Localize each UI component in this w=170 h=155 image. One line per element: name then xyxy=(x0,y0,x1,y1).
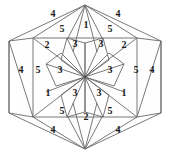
region-number-upper-right-3: 3 xyxy=(99,39,104,49)
region-number-bottom-right-5: 5 xyxy=(108,106,113,116)
region-number-bottom-left-4: 4 xyxy=(51,125,56,135)
region-number-lower-left-1: 1 xyxy=(46,88,51,98)
region-number-left-outer-4: 4 xyxy=(19,65,24,75)
region-number-bottom-center-2: 2 xyxy=(84,112,89,122)
region-number-upper-left-3: 3 xyxy=(73,39,78,49)
region-number-lower-right-3: 3 xyxy=(97,88,102,98)
region-number-right-core-3: 3 xyxy=(108,65,113,75)
region-number-bottom-left-5: 5 xyxy=(60,106,65,116)
region-number-left-5: 5 xyxy=(36,65,41,75)
region-number-top-center-1: 1 xyxy=(84,20,89,30)
center-hub-point xyxy=(84,76,86,78)
region-number-top-left-4: 4 xyxy=(51,9,56,19)
region-number-top-right-5: 5 xyxy=(108,24,113,34)
region-number-lower-left-3: 3 xyxy=(73,88,78,98)
region-number-lower-right-1: 1 xyxy=(122,88,127,98)
region-number-left-core-3: 3 xyxy=(58,65,63,75)
region-number-upper-left-2: 2 xyxy=(45,40,50,50)
region-number-right-5: 5 xyxy=(134,65,139,75)
region-number-upper-right-2: 2 xyxy=(122,40,127,50)
hexagon-puzzle-figure: 445152332453354133152544 xyxy=(0,0,170,155)
region-number-top-right-4: 4 xyxy=(116,9,121,19)
region-number-right-outer-4: 4 xyxy=(150,65,155,75)
region-number-bottom-right-4: 4 xyxy=(116,125,121,135)
region-number-top-left-5: 5 xyxy=(60,24,65,34)
